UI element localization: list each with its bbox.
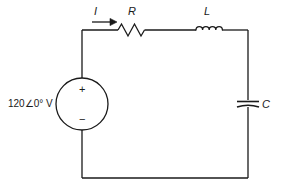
resistor-symbol xyxy=(118,24,145,36)
inductor-label: L xyxy=(204,6,210,17)
current-label: I xyxy=(94,6,97,17)
circuit-schematic-svg xyxy=(0,0,290,191)
current-arrow-head xyxy=(110,18,117,25)
polarity-plus-sign: + xyxy=(79,84,85,95)
capacitor-plate-bottom xyxy=(237,105,259,107)
polarity-minus-sign: − xyxy=(79,114,85,125)
capacitor-label: C xyxy=(262,99,270,110)
inductor-symbol xyxy=(196,27,222,30)
voltage-source-label: 120∠0° V xyxy=(8,99,53,109)
circuit-diagram: 120∠0° V + − I R L C xyxy=(0,0,290,191)
resistor-label: R xyxy=(128,6,136,17)
